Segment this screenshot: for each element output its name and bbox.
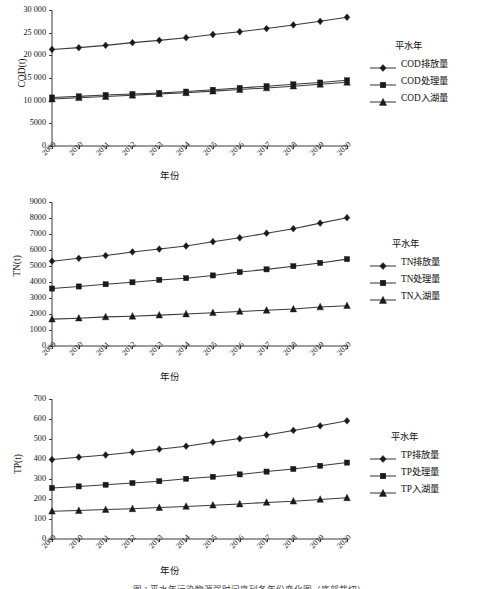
legend-label-tn-0: TN排放量 [401,257,440,267]
legend-marker-triangle-icon [370,291,396,301]
legend-item-cod-2[interactable]: COD入湖量 [370,93,448,103]
legend-item-tp-1[interactable]: TP处理量 [370,467,439,477]
legend-marker-diamond-icon [370,59,396,69]
legend-label-tp-1: TP处理量 [401,467,439,477]
legend-marker-square-icon [370,76,396,86]
plot-tn: TN(t) 0100020003000400050006000700080009… [0,188,360,388]
legend-item-tp-0[interactable]: TP排放量 [370,450,439,460]
figure-root: COD(t) 0500010 00015 00020 00025 00030 0… [0,0,499,589]
legend-label-cod-1: COD处理量 [401,76,448,86]
legend-label-cod-0: COD排放量 [401,59,448,69]
series-layer-tn [0,188,360,388]
figure-caption: 图 1 平水年污染物源强时间序列各年份变化图（底部裁切） [0,583,499,589]
legend-label-cod-2: COD入湖量 [401,93,448,103]
legend-tn: 平水年 TN排放量 TN处理量 TN入湖量 [370,236,440,308]
series-layer-cod [0,0,360,185]
legend-label-tp-2: TP入湖量 [401,484,439,494]
legend-title-tp: 平水年 [370,429,439,443]
legend-item-tn-0[interactable]: TN排放量 [370,257,440,267]
legend-marker-square-icon [370,274,396,284]
legend-label-tn-1: TN处理量 [401,274,440,284]
legend-title-cod: 平水年 [370,38,448,52]
series-layer-tp [0,391,360,581]
legend-marker-diamond-icon [370,450,396,460]
legend-item-cod-0[interactable]: COD排放量 [370,59,448,69]
chart-panel-cod: COD(t) 0500010 00015 00020 00025 00030 0… [0,0,499,185]
x-axis-title-tn: 年份 [55,369,285,383]
legend-item-cod-1[interactable]: COD处理量 [370,76,448,86]
legend-label-tn-2: TN入湖量 [401,291,440,301]
legend-marker-triangle-icon [370,93,396,103]
legend-marker-triangle-icon [370,484,396,494]
x-axis-title-cod: 年份 [55,168,285,182]
legend-item-tn-1[interactable]: TN处理量 [370,274,440,284]
legend-item-tp-2[interactable]: TP入湖量 [370,484,439,494]
plot-tp: TP(t) 0100200300400500600700 20092010201… [0,391,360,581]
chart-panel-tn: TN(t) 0100020003000400050006000700080009… [0,188,499,388]
chart-panel-tp: TP(t) 0100200300400500600700 20092010201… [0,391,499,581]
legend-label-tp-0: TP排放量 [401,450,439,460]
legend-tp: 平水年 TP排放量 TP处理量 TP入湖量 [370,429,439,501]
x-axis-title-tp: 年份 [55,563,285,577]
legend-marker-square-icon [370,467,396,477]
legend-title-tn: 平水年 [370,236,440,250]
legend-item-tn-2[interactable]: TN入湖量 [370,291,440,301]
legend-marker-diamond-icon [370,257,396,267]
legend-cod: 平水年 COD排放量 COD处理量 COD入湖量 [370,38,448,110]
plot-cod: COD(t) 0500010 00015 00020 00025 00030 0… [0,0,360,185]
